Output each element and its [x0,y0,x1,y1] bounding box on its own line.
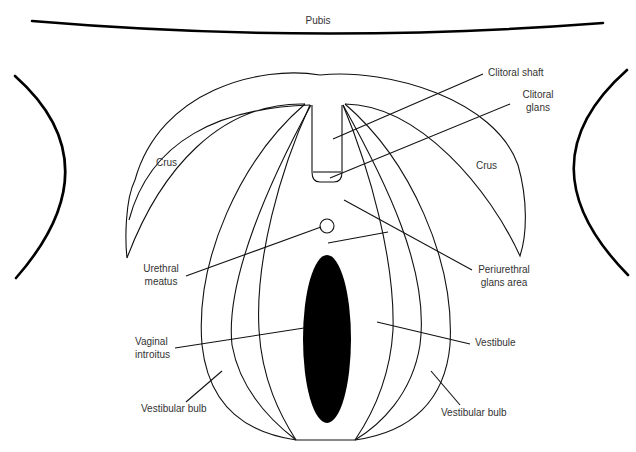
label-vestibular-bulb-left: Vestibular bulb [141,403,207,416]
urethral-meatus [320,219,334,233]
label-crus-left: Crus [156,157,177,170]
leader-vestibular-bulb-left [186,371,222,402]
leader-vestibule [377,322,470,344]
label-periurethral-glans-area: Periurethral glans area [474,264,534,289]
leader-periurethral-2 [328,232,388,243]
label-clitoral-shaft: Clitoral shaft [488,67,544,80]
label-urethral-meatus: Urethral meatus [136,263,186,288]
label-vaginal-introitus: Vaginal introitus [135,336,170,361]
label-crus-right: Crus [476,160,497,173]
right-thigh-curve [574,70,628,275]
right-outer-labial-line [343,105,421,440]
left-outer-labial-line [259,105,310,440]
clitoral-shaft [312,105,342,182]
label-vestibule: Vestibule [475,337,516,350]
leader-vaginal-introitus [175,328,304,348]
leader-vestibular-bulb-right [431,371,460,405]
vaginal-introitus [303,255,351,423]
label-vestibular-bulb-right: Vestibular bulb [441,407,507,420]
left-thigh-curve [15,76,65,278]
leader-urethral-meatus [186,227,321,276]
leader-periurethral-1 [344,200,472,270]
label-clitoral-glans: Clitoral glans [512,89,564,114]
label-pubis: Pubis [300,15,336,28]
